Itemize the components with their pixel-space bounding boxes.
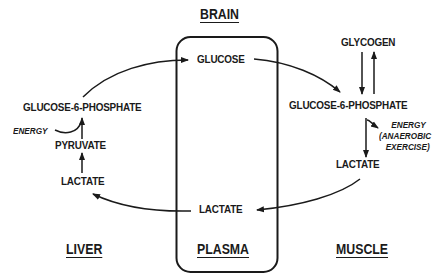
liver-lactate-node: LACTATE — [61, 175, 104, 187]
liver-pyruvate-node: PYRUVATE — [55, 139, 106, 151]
region-title-liver: LIVER — [66, 241, 102, 257]
liver-energy-label: ENERGY — [13, 125, 48, 136]
plasma-compartment-box — [177, 37, 278, 272]
muscle-lactate-node: LACTATE — [336, 158, 379, 170]
muscle-g6p-node: GLUCOSE-6-PHOSPHATE — [289, 99, 408, 111]
arrow-liver-energy-input — [55, 122, 81, 133]
muscle-glycogen-node: GLYCOGEN — [341, 36, 395, 48]
liver-g6p-node: GLUCOSE-6-PHOSPHATE — [23, 101, 142, 113]
muscle-energy-label: ENERGY (ANAEROBIC EXERCISE) — [379, 119, 431, 152]
muscle-energy-line3: EXERCISE) — [379, 141, 431, 152]
region-title-brain: BRAIN — [200, 6, 239, 22]
arrow-muscle-energy-output — [367, 120, 378, 128]
muscle-energy-line2: (ANAEROBIC — [379, 130, 431, 141]
arrow-muscle-lactate-to-plasma-lactate — [257, 179, 360, 210]
region-title-muscle: MUSCLE — [336, 241, 388, 257]
muscle-energy-line1: ENERGY — [379, 119, 431, 130]
arrow-plasma-glucose-to-muscle-g6p — [254, 59, 340, 92]
arrow-liver-g6p-to-plasma-glucose — [83, 60, 188, 97]
plasma-glucose-node: GLUCOSE — [197, 53, 245, 65]
plasma-lactate-node: LACTATE — [199, 203, 242, 215]
region-title-plasma: PLASMA — [197, 241, 249, 257]
